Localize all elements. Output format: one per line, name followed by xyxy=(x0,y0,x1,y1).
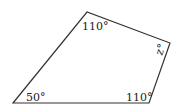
angle-label-bottom-right: 110° xyxy=(126,91,153,104)
angle-label-top: 110° xyxy=(82,20,109,33)
angle-label-bottom-left: 50° xyxy=(26,91,46,104)
quadrilateral-diagram: 50° 110° z° 110° xyxy=(0,0,178,112)
